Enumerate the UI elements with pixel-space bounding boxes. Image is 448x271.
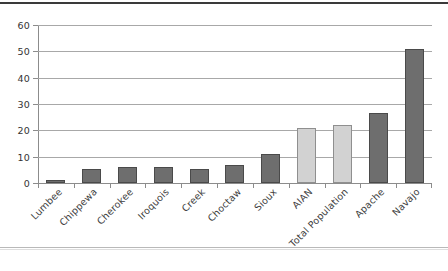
bar-slot bbox=[253, 25, 289, 183]
bar-slot bbox=[217, 25, 253, 183]
x-label-lumbee: Lumbee bbox=[28, 186, 64, 222]
y-tick-label: 40 bbox=[18, 72, 31, 83]
bar-slot bbox=[325, 25, 361, 183]
plot-area: 0102030405060 bbox=[38, 25, 432, 183]
bottom-divider-secondary bbox=[0, 249, 448, 250]
x-axis-category-labels: LumbeeChippewaCherokeeIroquoisCreekChoct… bbox=[38, 186, 432, 246]
bar-apache bbox=[369, 113, 388, 183]
bar-navajo bbox=[405, 49, 424, 183]
bar-slot bbox=[289, 25, 325, 183]
top-divider bbox=[0, 2, 448, 4]
bar-slot bbox=[74, 25, 110, 183]
bar-slot bbox=[110, 25, 146, 183]
bar-choctaw bbox=[225, 165, 244, 183]
y-tick-label: 10 bbox=[18, 151, 31, 162]
y-tick-label: 50 bbox=[18, 46, 31, 57]
x-label-creek: Creek bbox=[179, 186, 207, 214]
bar-creek bbox=[190, 169, 209, 183]
y-tick-label: 30 bbox=[18, 99, 31, 110]
bottom-divider bbox=[0, 247, 448, 248]
chart-figure: 0102030405060 LumbeeChippewaCherokeeIroq… bbox=[0, 0, 448, 271]
bar-slot bbox=[360, 25, 396, 183]
bar-slot bbox=[38, 25, 74, 183]
bar-aian bbox=[297, 128, 316, 183]
x-label-slot: Sioux bbox=[253, 186, 289, 246]
bar-iroquois bbox=[154, 167, 173, 183]
bar-slot bbox=[181, 25, 217, 183]
x-label-slot: Choctaw bbox=[217, 186, 253, 246]
y-tick-label: 0 bbox=[24, 178, 30, 189]
y-tick-label: 60 bbox=[18, 20, 31, 31]
y-tick-label: 20 bbox=[18, 125, 31, 136]
x-label-slot: Iroquois bbox=[145, 186, 181, 246]
x-label-slot: Total Population bbox=[325, 186, 361, 246]
x-label-slot: Apache bbox=[360, 186, 396, 246]
bar-series bbox=[38, 25, 432, 183]
bar-total-population bbox=[333, 125, 352, 183]
bar-slot bbox=[396, 25, 432, 183]
bar-chippewa bbox=[82, 169, 101, 183]
bar-cherokee bbox=[118, 167, 137, 183]
x-label-sioux: Sioux bbox=[252, 186, 279, 213]
bar-sioux bbox=[261, 154, 280, 183]
x-label-slot: Navajo bbox=[396, 186, 432, 246]
bar-slot bbox=[145, 25, 181, 183]
x-label-aian: AIAN bbox=[290, 186, 315, 211]
